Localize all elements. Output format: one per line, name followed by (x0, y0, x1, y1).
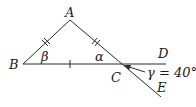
label-point-c: C (111, 70, 121, 85)
label-angle-beta: β (40, 49, 49, 64)
label-point-e: E (156, 80, 167, 95)
label-point-a: A (64, 5, 74, 20)
label-point-d: D (157, 46, 169, 61)
geometry-diagram: A B C D E β α γ = 40° (0, 0, 196, 107)
segment-ace (70, 20, 161, 97)
label-angle-alpha: α (95, 49, 104, 64)
label-point-b: B (8, 57, 19, 72)
label-angle-gamma: γ = 40° (147, 65, 196, 80)
